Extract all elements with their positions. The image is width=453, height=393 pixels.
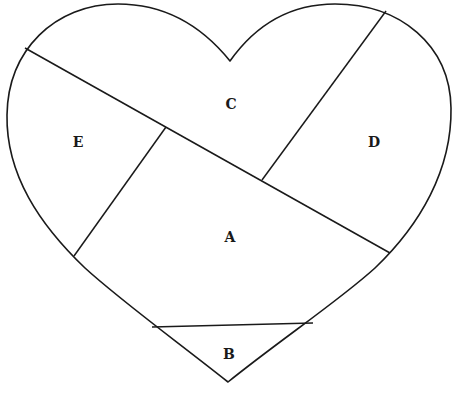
region-label-a: A: [224, 229, 237, 245]
heart-diagram: A B C D E: [0, 0, 453, 393]
region-label-d: D: [368, 134, 380, 150]
divider-a-b: [152, 323, 313, 327]
region-label-b: B: [223, 346, 235, 362]
region-label-e: E: [73, 134, 84, 150]
divider-e-a: [74, 127, 166, 256]
region-label-c: C: [225, 96, 236, 112]
divider-diagonal-main: [25, 48, 390, 253]
divider-c-d: [262, 11, 386, 180]
